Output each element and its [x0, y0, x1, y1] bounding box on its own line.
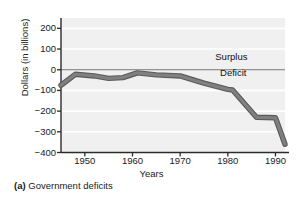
- x-tick-label: 1960: [112, 155, 152, 166]
- x-tick-label: 1970: [160, 155, 200, 166]
- x-axis-tick-labels: 19501960197019801990: [0, 155, 303, 169]
- x-tick-label: 1990: [255, 155, 295, 166]
- surplus-label: Surplus: [215, 51, 247, 62]
- figure-government-deficits: 2001000−100−200−300−400 1950196019701980…: [0, 0, 303, 202]
- x-tick-label: 1980: [208, 155, 248, 166]
- figure-caption: (a) Government deficits: [14, 180, 113, 191]
- x-axis-title: Years: [0, 168, 303, 179]
- figure-caption-tag: (a): [14, 180, 26, 191]
- deficit-label: Deficit: [220, 67, 246, 78]
- y-tick-label: −300: [22, 127, 56, 137]
- y-axis-title: Dollars (in billions): [19, 0, 30, 128]
- figure-caption-body: Government deficits: [28, 180, 112, 191]
- x-tick-label: 1950: [65, 155, 105, 166]
